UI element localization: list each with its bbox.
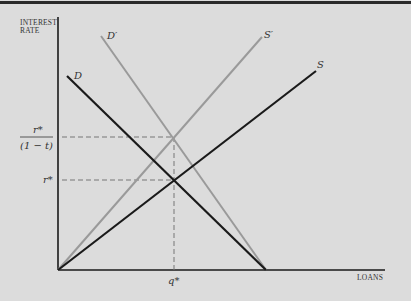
- y-axis-label-line2: RATE: [20, 26, 40, 35]
- tick-r-adjusted-numerator: r*: [33, 124, 43, 135]
- label-d: D: [73, 70, 82, 81]
- tick-r-adjusted-denominator: (1 − t): [20, 140, 53, 151]
- tick-q-star: q*: [168, 275, 179, 286]
- curve-d-prime: [101, 36, 266, 270]
- label-s: S: [317, 59, 324, 70]
- loan-market-chart: INTEREST RATE LOANS D D′ S′ S r* (1 − t)…: [0, 0, 420, 301]
- tick-r-star: r*: [43, 174, 53, 185]
- curve-s: [58, 71, 316, 270]
- label-d-prime: D′: [106, 30, 118, 41]
- x-axis-label: LOANS: [357, 273, 383, 282]
- label-s-prime: S′: [264, 29, 274, 40]
